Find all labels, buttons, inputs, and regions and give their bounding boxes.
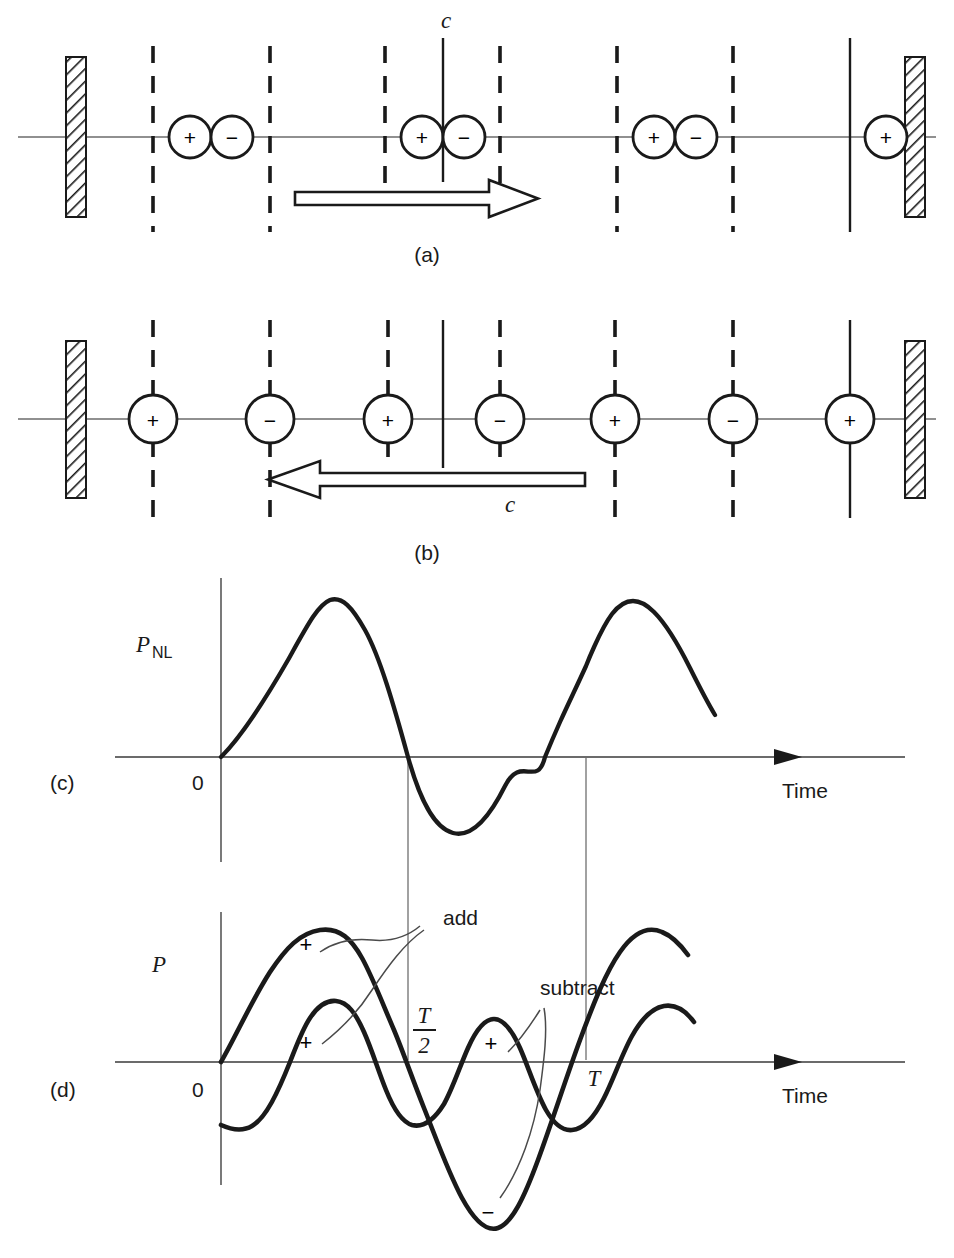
panel-a-label: (a) — [414, 243, 440, 266]
panel-b-right-mirror — [905, 341, 925, 498]
charge-sign: + — [609, 409, 621, 432]
period-label: T — [588, 1066, 603, 1091]
panel-a-left-mirror — [66, 57, 86, 217]
charge-sign: + — [844, 409, 856, 432]
charge-sign: + — [184, 126, 196, 149]
physics-figure-svg: c + − + − + − + (a) — [0, 0, 954, 1258]
panel-c-ylabel-subscript: NL — [152, 644, 173, 661]
panel-b-left-mirror — [66, 341, 86, 498]
panel-d-zero-label: 0 — [192, 1078, 204, 1101]
charge-sign: + — [382, 409, 394, 432]
charge-sign: + — [648, 126, 660, 149]
panel-b-label: (b) — [414, 541, 440, 564]
half-period-numerator: T — [418, 1003, 433, 1028]
figure-background — [0, 0, 954, 1258]
panel-b-speed-label: c — [505, 492, 515, 517]
annotation-add: add — [443, 906, 478, 929]
curve-sign-marker: − — [482, 1200, 495, 1225]
panel-d-time-label: Time — [782, 1084, 828, 1107]
half-period-denominator: 2 — [418, 1033, 430, 1058]
charge-sign: + — [880, 126, 892, 149]
panel-c-ylabel: P — [135, 632, 150, 657]
panel-d-label: (d) — [50, 1078, 76, 1101]
charge-sign: − — [690, 126, 702, 149]
curve-sign-marker: + — [300, 1030, 313, 1055]
figure-root: c + − + − + − + (a) — [0, 0, 954, 1258]
panel-c-time-label: Time — [782, 779, 828, 802]
curve-sign-marker: + — [300, 932, 313, 957]
panel-a-speed-label: c — [441, 8, 451, 33]
charge-sign: − — [226, 126, 238, 149]
charge-sign: + — [416, 126, 428, 149]
charge-sign: + — [147, 409, 159, 432]
panel-c-zero-label: 0 — [192, 771, 204, 794]
charge-sign: − — [458, 126, 470, 149]
charge-sign: − — [494, 409, 506, 432]
curve-sign-marker: + — [485, 1031, 498, 1056]
charge-sign: − — [727, 409, 739, 432]
charge-sign: − — [264, 409, 276, 432]
annotation-subtract: subtract — [540, 976, 615, 999]
panel-c-label: (c) — [50, 771, 75, 794]
panel-d-ylabel: P — [151, 952, 166, 977]
